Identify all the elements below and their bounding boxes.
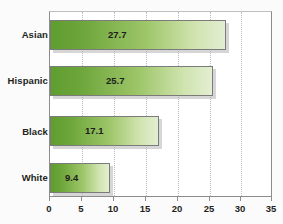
bar-fill-asian [50, 20, 226, 50]
bar-white: 9.4 [50, 163, 110, 193]
bar-fill-hispanic [50, 66, 213, 96]
x-tick-mark-0 [49, 197, 50, 201]
x-tick-mark-5 [81, 197, 82, 201]
bar-chart: Asian Hispanic Black White 27.7 25.7 17.… [0, 0, 283, 224]
x-tick-label-15: 15 [133, 203, 157, 214]
x-tick-label-5: 5 [69, 203, 93, 214]
bar-value-asian: 27.7 [108, 20, 127, 50]
x-tick-mark-10 [113, 197, 114, 201]
bar-value-white: 9.4 [65, 163, 78, 193]
bar-value-black: 17.1 [85, 116, 104, 146]
x-tick-label-10: 10 [101, 203, 125, 214]
x-tick-label-30: 30 [228, 203, 252, 214]
x-tick-label-25: 25 [197, 203, 221, 214]
y-axis-label-asian: Asian [2, 29, 48, 40]
plot-area: 27.7 25.7 17.1 9.4 [49, 11, 272, 197]
x-tick-mark-35 [271, 197, 272, 201]
bar-fill-white [50, 163, 110, 193]
y-axis-label-white: White [2, 172, 48, 183]
bar-value-hispanic: 25.7 [106, 66, 125, 96]
x-tick-mark-15 [145, 197, 146, 201]
x-tick-label-20: 20 [165, 203, 189, 214]
x-tick-mark-25 [209, 197, 210, 201]
y-axis-label-black: Black [2, 126, 48, 137]
x-tick-label-0: 0 [37, 203, 61, 214]
gridline-30 [241, 12, 242, 196]
bar-black: 17.1 [50, 116, 159, 146]
bar-hispanic: 25.7 [50, 66, 213, 96]
x-tick-label-35: 35 [259, 203, 283, 214]
x-tick-mark-30 [240, 197, 241, 201]
x-tick-mark-20 [177, 197, 178, 201]
bar-asian: 27.7 [50, 20, 226, 50]
y-axis-label-hispanic: Hispanic [2, 75, 48, 86]
bar-fill-black [50, 116, 159, 146]
